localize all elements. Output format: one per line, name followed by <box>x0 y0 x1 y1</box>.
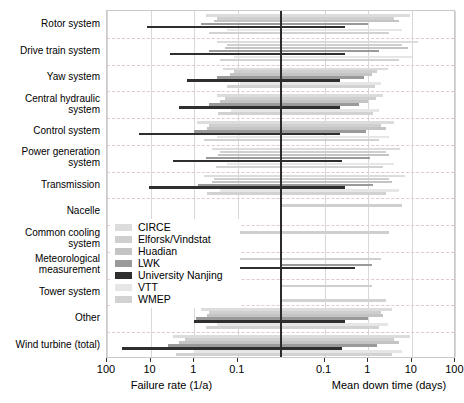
x-tick <box>106 358 107 362</box>
legend-swatch-icon <box>115 272 132 279</box>
x-axis: 1001010.10.1110100Failure rate (1/a)Mean… <box>0 358 461 403</box>
legend-item-label: Huadian <box>138 245 177 257</box>
legend-item-label: WMEP <box>138 293 171 305</box>
bar-wmep <box>209 32 389 35</box>
legend-swatch-icon <box>115 224 132 231</box>
legend-item[interactable]: WMEP <box>115 293 237 305</box>
bar-wmep <box>176 353 392 356</box>
bar-wmep <box>281 299 386 302</box>
bar-wmep <box>206 326 380 329</box>
legend-item[interactable]: CIRCE <box>115 221 237 233</box>
gridline-vertical <box>455 11 456 357</box>
legend-item[interactable]: LWK <box>115 257 237 269</box>
legend-swatch-icon <box>115 284 132 291</box>
x-tick <box>193 358 194 362</box>
legend-swatch-icon <box>115 236 132 243</box>
bar-wmep <box>216 166 383 169</box>
legend-swatch-icon <box>115 296 132 303</box>
x-tick-label: 1 <box>364 363 370 375</box>
bar-wmep <box>207 192 386 195</box>
y-axis-label: Drive train system <box>20 45 100 56</box>
y-axis-label: Transmission <box>41 179 100 190</box>
center-divider <box>280 11 282 357</box>
legend-item[interactable]: University Nanjing <box>115 269 237 281</box>
legend-item-label: VTT <box>138 281 158 293</box>
x-tick-label: 10 <box>405 363 417 375</box>
y-axis-label: Common cooling system <box>25 227 100 249</box>
bar-elforsk-vindstat <box>281 285 372 288</box>
x-tick-label: 100 <box>97 363 115 375</box>
bar-elforsk-vindstat <box>281 204 402 207</box>
x-tick-label: 0.1 <box>229 363 244 375</box>
y-axis-label: Wind turbine (total) <box>16 339 100 350</box>
legend-item[interactable]: Huadian <box>115 245 237 257</box>
bar-wmep <box>227 85 375 88</box>
x-tick-label: 10 <box>143 363 155 375</box>
x-tick <box>237 358 238 362</box>
y-axis-label: Yaw system <box>47 71 100 82</box>
legend-swatch-icon <box>115 260 132 267</box>
y-axis-label: Nacelle <box>67 205 100 216</box>
legend-item[interactable]: VTT <box>115 281 237 293</box>
x-tick-label: 0.1 <box>316 363 331 375</box>
y-axis-label: Power generation system <box>22 146 100 168</box>
bar-wmep <box>220 59 398 62</box>
y-axis-label: Rotor system <box>41 18 100 29</box>
x-tick-label: 100 <box>445 363 463 375</box>
right-axis-title: Mean down time (days) <box>332 379 446 391</box>
x-tick <box>411 358 412 362</box>
legend-swatch-icon <box>115 248 132 255</box>
bar-wmep <box>204 139 379 142</box>
y-axis-label: Tower system <box>39 286 100 297</box>
legend-item-label: CIRCE <box>138 221 171 233</box>
x-tick <box>150 358 151 362</box>
x-tick <box>367 358 368 362</box>
legend-item-label: University Nanjing <box>138 269 223 281</box>
x-tick <box>454 358 455 362</box>
legend-item[interactable]: Elforsk/Vindstat <box>115 233 237 245</box>
left-axis-title: Failure rate (1/a) <box>131 379 212 391</box>
y-axis-labels: Rotor systemDrive train systemYaw system… <box>0 0 100 360</box>
chart-legend: CIRCEElforsk/VindstatHuadianLWKUniversit… <box>112 219 240 308</box>
legend-item-label: LWK <box>138 257 160 269</box>
y-axis-label: Central hydraulic system <box>25 93 100 115</box>
x-tick-label: 1 <box>190 363 196 375</box>
y-axis-label: Other <box>75 312 100 323</box>
x-tick <box>324 358 325 362</box>
legend-item-label: Elforsk/Vindstat <box>138 233 211 245</box>
y-axis-label: Control system <box>33 125 100 136</box>
bar-wmep <box>218 112 373 115</box>
y-axis-label: Meteorological measurement <box>35 253 100 275</box>
